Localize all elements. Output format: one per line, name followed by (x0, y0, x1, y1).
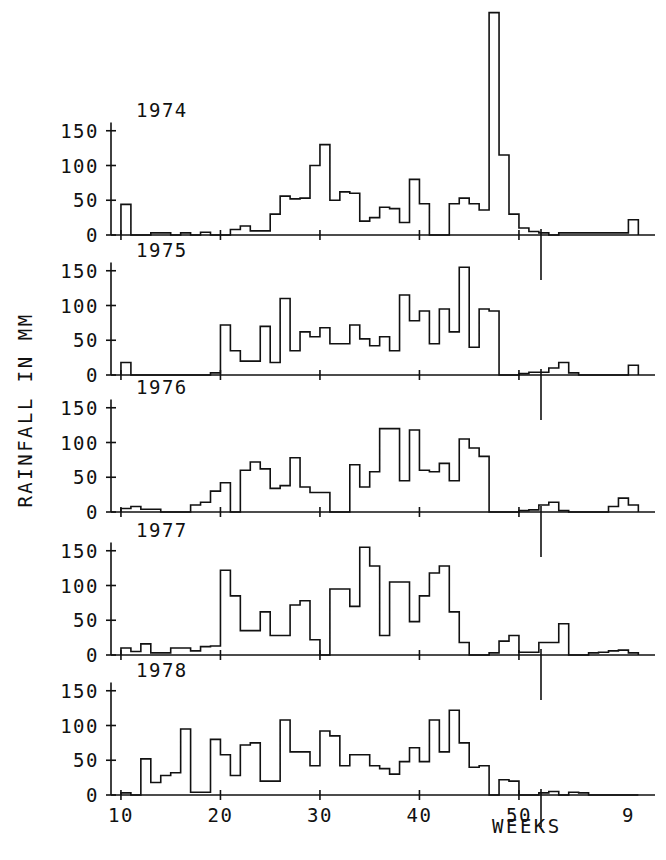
x-tick-label: 9 (622, 804, 635, 826)
x-axis-title: WEEKS (492, 815, 562, 837)
y-tick-label: 150 (60, 120, 99, 142)
x-tick-label: 40 (407, 804, 433, 826)
series-line-1974 (121, 13, 638, 235)
y-tick-label: 0 (86, 501, 99, 523)
panel-year-label: 1977 (136, 519, 188, 541)
panel-year-label: 1976 (136, 376, 188, 398)
y-tick-label: 100 (60, 155, 99, 177)
y-tick-label: 150 (60, 540, 99, 562)
series-line-1978 (121, 710, 638, 795)
y-tick-label: 0 (86, 784, 99, 806)
y-tick-label: 100 (60, 432, 99, 454)
panel-year-label: 1978 (136, 659, 188, 681)
y-tick-label: 0 (86, 644, 99, 666)
y-tick-label: 100 (60, 295, 99, 317)
x-tick-label: 10 (108, 804, 134, 826)
y-tick-label: 50 (73, 749, 99, 771)
y-tick-label: 100 (60, 715, 99, 737)
y-tick-label: 100 (60, 575, 99, 597)
y-tick-label: 150 (60, 260, 99, 282)
y-tick-label: 50 (73, 609, 99, 631)
y-tick-label: 50 (73, 329, 99, 351)
y-tick-label: 0 (86, 224, 99, 246)
panel-year-label: 1975 (136, 239, 188, 261)
panel-1978: 0501001501978 (60, 659, 655, 806)
y-tick-label: 0 (86, 364, 99, 386)
x-tick-label: 30 (307, 804, 333, 826)
y-tick-label: 150 (60, 397, 99, 419)
panel-year-label: 1974 (136, 99, 188, 121)
rainfall-figure: RAINFALL IN MM WEEKS 0501001501974050100… (0, 0, 666, 860)
series-line-1976 (121, 429, 638, 512)
x-tick-label: 20 (208, 804, 234, 826)
y-tick-label: 50 (73, 466, 99, 488)
series-line-1975 (121, 267, 638, 375)
rainfall-multipanel-chart: 0501001501974050100150197505010015019760… (0, 0, 666, 860)
y-tick-label: 150 (60, 680, 99, 702)
series-line-1977 (121, 547, 638, 655)
y-tick-label: 50 (73, 189, 99, 211)
